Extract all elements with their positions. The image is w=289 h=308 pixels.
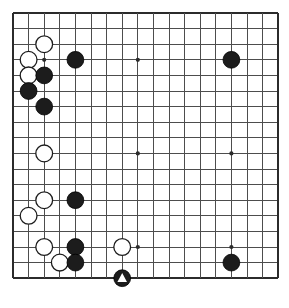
black-stone[interactable]	[223, 254, 240, 271]
stone-disc	[20, 83, 37, 100]
go-board-container[interactable]	[0, 0, 289, 308]
stone-disc	[223, 51, 240, 68]
stone-disc	[51, 254, 68, 271]
black-stone[interactable]	[67, 192, 84, 209]
stone-disc	[223, 254, 240, 271]
black-stone[interactable]	[20, 83, 37, 100]
white-stone[interactable]	[51, 254, 68, 271]
stone-disc	[36, 239, 53, 256]
stone-disc	[36, 36, 53, 53]
star-point-icon	[229, 245, 233, 249]
star-point-icon	[136, 58, 140, 62]
black-stone[interactable]	[67, 239, 84, 256]
stone-disc	[36, 192, 53, 209]
white-stone[interactable]	[114, 239, 131, 256]
stone-disc	[36, 98, 53, 115]
star-point-icon	[136, 151, 140, 155]
white-stone[interactable]	[20, 207, 37, 224]
star-point-icon	[42, 58, 46, 62]
stone-disc	[67, 239, 84, 256]
black-stone[interactable]	[36, 98, 53, 115]
white-stone[interactable]	[36, 145, 53, 162]
black-stone[interactable]	[114, 270, 131, 287]
star-point-icon	[229, 151, 233, 155]
star-point-icon	[136, 245, 140, 249]
stone-disc	[67, 192, 84, 209]
stone-disc	[20, 51, 37, 68]
stone-disc	[20, 67, 37, 84]
stone-disc	[20, 207, 37, 224]
black-stone[interactable]	[223, 51, 240, 68]
stone-disc	[67, 254, 84, 271]
black-stone[interactable]	[36, 67, 53, 84]
white-stone[interactable]	[20, 67, 37, 84]
stone-disc	[36, 67, 53, 84]
black-stone[interactable]	[67, 51, 84, 68]
diagram-caption	[0, 298, 289, 308]
go-diagram-page	[0, 0, 289, 308]
stone-disc	[114, 239, 131, 256]
white-stone[interactable]	[20, 51, 37, 68]
white-stone[interactable]	[36, 36, 53, 53]
black-stone[interactable]	[67, 254, 84, 271]
white-stone[interactable]	[36, 239, 53, 256]
stone-disc	[36, 145, 53, 162]
white-stone[interactable]	[36, 192, 53, 209]
stone-disc	[67, 51, 84, 68]
go-board[interactable]	[0, 0, 289, 308]
